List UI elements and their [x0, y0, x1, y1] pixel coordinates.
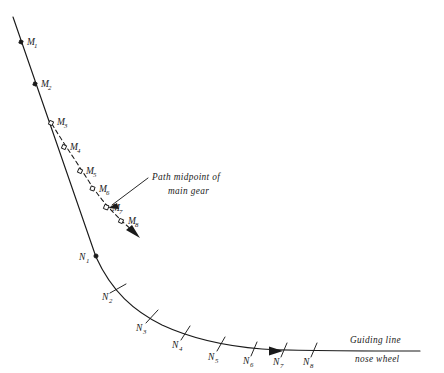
main-gear-annotation-line1: Path midpoint of [151, 172, 221, 182]
label-n2: N [101, 292, 109, 302]
label-m6-sub: 6 [106, 189, 110, 196]
main-gear-markers [19, 40, 124, 224]
label-n3: N [135, 323, 143, 333]
label-n7: N [272, 357, 280, 367]
marker-m6 [90, 186, 95, 191]
label-n6-sub: 6 [250, 361, 254, 368]
label-n8-sub: 8 [310, 362, 314, 369]
label-m8-sub: 8 [135, 221, 139, 228]
label-n7-sub: 7 [280, 362, 284, 369]
label-n1-sub: 1 [86, 257, 89, 264]
guiding-line-path [13, 17, 420, 351]
main-gear-annotation-line2: main gear [168, 186, 209, 196]
label-n5-sub: 5 [215, 357, 219, 364]
label-m1-sub: 1 [34, 42, 37, 49]
marker-n1 [94, 254, 98, 258]
marker-m8 [118, 218, 123, 223]
label-m3-sub: 3 [63, 122, 68, 129]
label-m7-sub: 7 [119, 208, 123, 215]
marker-m4 [61, 144, 66, 149]
guiding-line-arrowhead [269, 347, 283, 356]
marker-m2 [33, 82, 37, 86]
technical-diagram: M 1 M 2 M 3 M 4 M 5 M 6 M 7 M 8 N 1 N 2 … [0, 0, 444, 373]
diagram-canvas: M 1 M 2 M 3 M 4 M 5 M 6 M 7 M 8 N 1 N 2 … [0, 0, 444, 373]
marker-m7 [103, 204, 109, 210]
label-n4: N [171, 340, 179, 350]
marker-m5 [77, 168, 82, 173]
label-n6: N [242, 356, 250, 366]
marker-m3 [48, 120, 53, 125]
label-m2-sub: 2 [48, 84, 52, 91]
main-gear-labels: M 1 M 2 M 3 M 4 M 5 M 6 M 7 M 8 [26, 37, 139, 228]
label-n1: N [78, 252, 86, 262]
label-n5: N [207, 352, 215, 362]
label-n3-sub: 3 [142, 328, 147, 335]
label-n2-sub: 2 [109, 297, 113, 304]
label-n8: N [302, 357, 310, 367]
nose-wheel-markers [94, 254, 317, 357]
label-m4-sub: 4 [77, 147, 81, 154]
main-gear-annotation-leader [112, 178, 148, 205]
marker-m1 [19, 40, 23, 44]
guiding-line-annotation-line1: Guiding line [350, 335, 401, 345]
label-m5-sub: 5 [93, 171, 97, 178]
guiding-line-annotation-line2: nose wheel [355, 354, 400, 364]
label-n4-sub: 4 [179, 345, 183, 352]
